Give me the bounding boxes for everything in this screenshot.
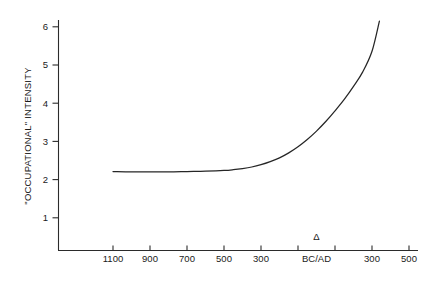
line-chart-canvas: "OCCUPATIONAL" INTENSITY 123456 11009007… xyxy=(0,0,441,290)
y-tick-label: 4 xyxy=(43,98,48,109)
chart-figure: "OCCUPATIONAL" INTENSITY 123456 11009007… xyxy=(0,0,441,290)
y-axis-ticks: 123456 xyxy=(43,21,59,223)
axes-group xyxy=(58,20,418,251)
origin-delta-symbol: Δ xyxy=(313,231,320,242)
x-tick-label: 500 xyxy=(401,253,417,264)
x-axis-ticks: 1100900700500300300500 xyxy=(103,246,417,265)
y-tick-label: 1 xyxy=(43,212,48,223)
x-tick-label: 300 xyxy=(253,253,269,264)
x-tick-label: 900 xyxy=(142,253,158,264)
y-tick-label: 5 xyxy=(43,59,48,70)
x-tick-label: 300 xyxy=(364,253,380,264)
data-series-line xyxy=(113,21,379,172)
y-tick-label: 3 xyxy=(43,136,48,147)
y-tick-label: 6 xyxy=(43,21,48,32)
x-tick-label: 1100 xyxy=(103,253,123,264)
x-axis-label: BC/AD xyxy=(302,253,331,264)
y-tick-label: 2 xyxy=(43,174,48,185)
y-axis-label: "OCCUPATIONAL" INTENSITY xyxy=(22,67,33,205)
x-tick-label: 500 xyxy=(216,253,232,264)
x-tick-label: 700 xyxy=(179,253,195,264)
